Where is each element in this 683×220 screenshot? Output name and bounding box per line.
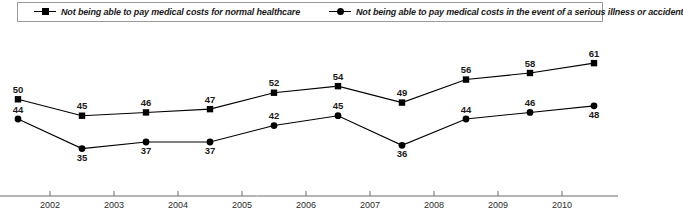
x-axis-tick-label: 2004 <box>168 200 188 210</box>
data-point-marker <box>15 116 22 123</box>
data-point-marker <box>335 112 342 119</box>
data-point-marker <box>463 76 469 82</box>
x-axis-tick-label: 2009 <box>488 200 508 210</box>
data-point-label: 37 <box>205 145 216 156</box>
x-axis: 200220032004200520062007200820092010 <box>0 191 618 210</box>
data-point-label: 61 <box>589 48 600 59</box>
data-point-label: 54 <box>333 71 344 82</box>
data-point-label: 37 <box>141 145 152 156</box>
data-point-label: 47 <box>205 94 216 105</box>
data-point-marker <box>271 122 278 129</box>
data-point-label: 35 <box>77 152 88 163</box>
data-point-label: 58 <box>525 58 536 69</box>
data-point-label: 48 <box>589 109 600 120</box>
x-axis-tick-label: 2005 <box>232 200 252 210</box>
x-axis-tick-label: 2008 <box>424 200 444 210</box>
data-point-label: 46 <box>525 97 536 108</box>
data-point-label: 50 <box>13 84 24 95</box>
data-point-marker <box>15 96 21 102</box>
data-point-marker <box>271 90 277 96</box>
data-point-label: 49 <box>397 87 408 98</box>
series-line <box>18 106 594 149</box>
data-point-marker <box>527 70 533 76</box>
data-point-label: 52 <box>269 77 280 88</box>
x-axis-tick-label: 2003 <box>104 200 124 210</box>
data-point-label: 45 <box>333 100 344 111</box>
x-axis-tick-label: 2006 <box>296 200 316 210</box>
data-point-marker <box>527 109 534 116</box>
series-normal-healthcare: 50454647525449565861 <box>13 48 600 119</box>
data-point-label: 56 <box>461 64 472 75</box>
data-point-label: 42 <box>269 110 280 121</box>
data-point-marker <box>591 60 597 66</box>
series-layer: 5045464752544956586144353737424536444648 <box>13 48 600 163</box>
data-point-label: 44 <box>461 104 472 115</box>
data-point-marker <box>79 113 85 119</box>
data-point-marker <box>399 99 405 105</box>
data-point-label: 36 <box>397 148 408 159</box>
data-point-label: 45 <box>77 100 88 111</box>
x-axis-tick-label: 2010 <box>552 200 572 210</box>
data-point-marker <box>143 109 149 115</box>
data-point-marker <box>207 106 213 112</box>
series-line <box>18 63 594 116</box>
data-point-marker <box>335 83 341 89</box>
data-point-marker <box>463 116 470 123</box>
x-axis-tick-label: 2007 <box>360 200 380 210</box>
data-point-label: 44 <box>13 104 24 115</box>
x-axis-tick-label: 2002 <box>40 200 60 210</box>
data-point-label: 46 <box>141 97 152 108</box>
series-serious-illness: 44353737424536444648 <box>13 97 600 163</box>
